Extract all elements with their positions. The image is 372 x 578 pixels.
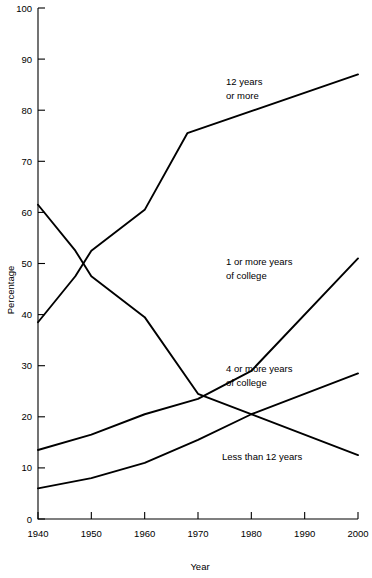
- axis-lines: [38, 8, 358, 519]
- y-tick-label: 80: [21, 105, 32, 116]
- y-tick-label: 70: [21, 156, 32, 167]
- y-tick-label: 100: [16, 3, 32, 14]
- chart-container: 0102030405060708090100 19401950196019701…: [0, 0, 372, 578]
- education-attainment-line-chart: 0102030405060708090100 19401950196019701…: [0, 0, 372, 578]
- x-tick-label: 1960: [134, 528, 155, 539]
- y-tick-label: 40: [21, 309, 32, 320]
- series-line-4-or-more-years-of-college: [38, 373, 358, 488]
- y-tick-label: 50: [21, 258, 32, 269]
- axis-group: [38, 8, 358, 519]
- y-tick-label: 20: [21, 411, 32, 422]
- x-axis-title: Year: [190, 561, 209, 572]
- x-tick-label: 1980: [241, 528, 262, 539]
- annotation-line-2: of college: [226, 377, 267, 388]
- annotation-line-1: 12 years: [226, 76, 263, 87]
- x-axis-tick-marks: [38, 512, 358, 519]
- x-tick-label: 2000: [347, 528, 368, 539]
- x-axis-tick-labels: 1940195019601970198019902000: [27, 528, 368, 539]
- y-tick-label: 60: [21, 207, 32, 218]
- annotation-line-1: Less than 12 years: [222, 451, 303, 462]
- y-tick-label: 30: [21, 360, 32, 371]
- y-axis-title: Percentage: [5, 266, 16, 315]
- annotation-4-or-more-years-of-college: 4 or more years of college: [226, 363, 293, 388]
- annotation-less-than-12-years: Less than 12 years: [222, 451, 303, 462]
- series-line-less-than-12-years: [38, 205, 358, 455]
- series-lines: [38, 74, 358, 488]
- x-tick-label: 1940: [27, 528, 48, 539]
- y-axis-tick-marks: [38, 8, 45, 519]
- annotation-line-2: or more: [226, 90, 259, 101]
- x-tick-label: 1970: [187, 528, 208, 539]
- series-line-1-or-more-years-of-college: [38, 258, 358, 450]
- annotation-line-1: 1 or more years: [226, 256, 293, 267]
- series-line-12-years-or-more: [38, 74, 358, 322]
- y-tick-label: 90: [21, 54, 32, 65]
- y-tick-label: 0: [27, 514, 32, 525]
- annotation-line-1: 4 or more years: [226, 363, 293, 374]
- annotation-1-or-more-years-of-college: 1 or more years of college: [226, 256, 293, 281]
- x-tick-label: 1990: [294, 528, 315, 539]
- y-tick-label: 10: [21, 462, 32, 473]
- annotation-12-years-or-more: 12 years or more: [226, 76, 263, 101]
- annotation-line-2: of college: [226, 270, 267, 281]
- x-tick-label: 1950: [81, 528, 102, 539]
- y-axis-tick-labels: 0102030405060708090100: [16, 3, 32, 525]
